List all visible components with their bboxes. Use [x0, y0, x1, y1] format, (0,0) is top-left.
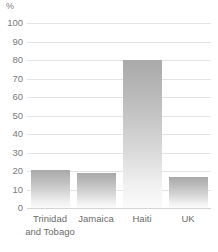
y-axis-tick-label: 0 — [0, 203, 23, 213]
y-axis-tick-label: 60 — [0, 92, 23, 102]
x-axis-category-labels: Trinidadand TobagoJamaicaHaitiUK — [27, 213, 211, 251]
y-axis-tick-label: 40 — [0, 129, 23, 139]
y-axis-tick-label: 80 — [0, 55, 23, 65]
y-axis-tick-label: 10 — [0, 185, 23, 195]
x-axis-category-label-line: and Tobago — [24, 226, 76, 239]
x-axis-category-label-line: Haiti — [116, 213, 168, 226]
bar — [169, 177, 208, 208]
y-axis-tick-label: 30 — [0, 148, 23, 158]
y-axis-tick-label: 100 — [0, 18, 23, 28]
x-axis-category-label: Jamaica — [70, 213, 122, 226]
y-axis-tick-label: 70 — [0, 74, 23, 84]
x-axis-category-label-line: Trinidad — [24, 213, 76, 226]
x-axis-category-label-line: Jamaica — [70, 213, 122, 226]
x-axis-category-label: UK — [162, 213, 214, 226]
bar-chart: % 1009080706050403020100 Trinidadand Tob… — [0, 0, 218, 252]
y-axis-tick-label: 90 — [0, 37, 23, 47]
bar — [123, 60, 162, 208]
bar — [77, 173, 116, 208]
x-axis-category-label-line: UK — [162, 213, 214, 226]
bar — [31, 170, 70, 208]
x-axis-category-label: Haiti — [116, 213, 168, 226]
x-axis-category-label: Trinidadand Tobago — [24, 213, 76, 238]
y-axis-tick-label: 20 — [0, 166, 23, 176]
y-axis-tick-label: 50 — [0, 111, 23, 121]
